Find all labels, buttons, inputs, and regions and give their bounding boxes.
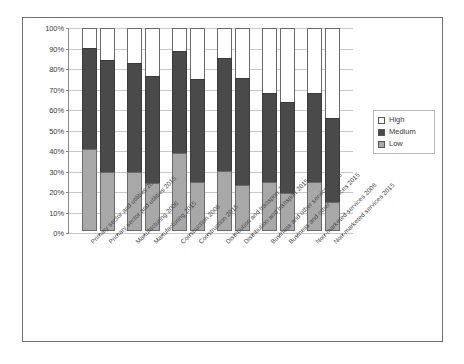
bar-column[interactable] bbox=[82, 28, 97, 233]
bar-segment-high[interactable] bbox=[145, 28, 160, 77]
y-tick-label: 30% bbox=[49, 167, 64, 176]
bar-segment-high[interactable] bbox=[190, 28, 205, 80]
y-tick-label: 50% bbox=[49, 126, 64, 135]
bar-segment-high[interactable] bbox=[262, 28, 277, 94]
bar-column[interactable] bbox=[235, 28, 250, 233]
bar-segment-medium[interactable] bbox=[172, 51, 187, 155]
bar-segment-medium[interactable] bbox=[217, 58, 232, 172]
bar-segment-high[interactable] bbox=[280, 28, 295, 103]
bar-segment-high[interactable] bbox=[307, 28, 322, 94]
bar-segment-medium[interactable] bbox=[190, 79, 205, 183]
chart-legend: HighMediumLow bbox=[373, 110, 435, 154]
y-tick-label: 60% bbox=[49, 106, 64, 115]
legend-label: Low bbox=[389, 140, 403, 148]
y-tick-label: 10% bbox=[49, 208, 64, 217]
legend-swatch-icon bbox=[378, 117, 385, 124]
bar-segment-medium[interactable] bbox=[100, 60, 115, 173]
y-tick-label: 80% bbox=[49, 65, 64, 74]
legend-swatch-icon bbox=[378, 129, 385, 136]
legend-label: Medium bbox=[389, 128, 416, 136]
legend-swatch-icon bbox=[378, 141, 385, 148]
bar-segment-medium[interactable] bbox=[145, 76, 160, 184]
bar-segment-medium[interactable] bbox=[262, 93, 277, 183]
bar-segment-high[interactable] bbox=[127, 28, 142, 64]
legend-item[interactable]: High bbox=[378, 114, 431, 126]
bar-segment-high[interactable] bbox=[172, 28, 187, 52]
legend-item[interactable]: Medium bbox=[378, 126, 431, 138]
y-tick-label: 40% bbox=[49, 147, 64, 156]
bar-segment-medium[interactable] bbox=[307, 93, 322, 183]
bar-segment-high[interactable] bbox=[82, 28, 97, 49]
bar-column[interactable] bbox=[217, 28, 232, 233]
bar-segment-medium[interactable] bbox=[235, 78, 250, 186]
bar-segment-high[interactable] bbox=[235, 28, 250, 79]
y-tick-label: 90% bbox=[49, 44, 64, 53]
x-axis-category-labels: Primary sector and utilities 2006Primary… bbox=[0, 234, 464, 344]
y-tick-label: 20% bbox=[49, 188, 64, 197]
bar-column[interactable] bbox=[100, 28, 115, 233]
bar-segment-high[interactable] bbox=[100, 28, 115, 61]
legend-label: High bbox=[389, 116, 404, 124]
bar-segment-high[interactable] bbox=[217, 28, 232, 59]
bar-segment-high[interactable] bbox=[325, 28, 340, 119]
y-tick-label: 70% bbox=[49, 85, 64, 94]
bar-segment-medium[interactable] bbox=[82, 48, 97, 151]
legend-item[interactable]: Low bbox=[378, 138, 431, 150]
y-tick-label: 100% bbox=[45, 24, 64, 33]
bar-segment-medium[interactable] bbox=[127, 63, 142, 173]
bar-segment-low[interactable] bbox=[82, 149, 97, 231]
